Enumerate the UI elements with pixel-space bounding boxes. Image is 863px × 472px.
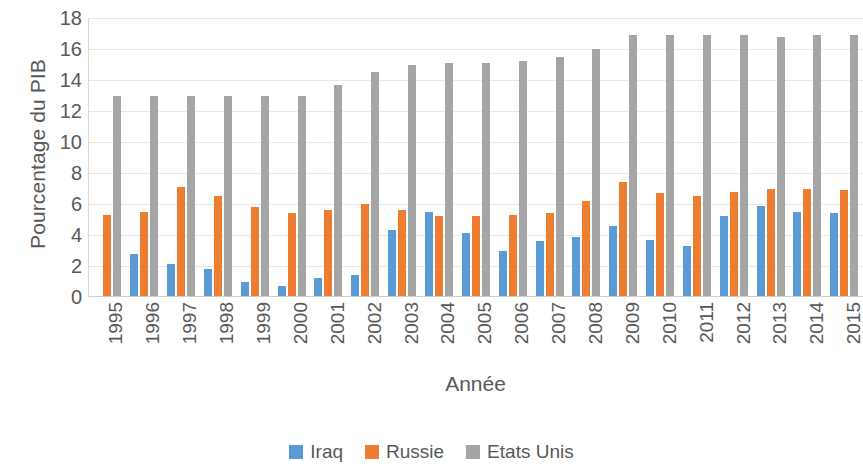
bar: [361, 204, 369, 297]
x-axis-tick-label: 2013: [770, 302, 789, 344]
bar-group: [310, 18, 347, 297]
x-axis-tick-label: 2000: [291, 302, 310, 344]
chart-legend: IraqRussieEtats Unis: [0, 442, 863, 461]
bar: [572, 237, 580, 297]
bar: [840, 190, 848, 297]
bar: [803, 189, 811, 298]
bar: [656, 193, 664, 297]
bar: [693, 196, 701, 297]
legend-label: Iraq: [310, 442, 343, 461]
x-axis-tick-label: 1995: [106, 302, 125, 344]
legend-swatch-icon: [466, 445, 480, 459]
x-axis-tick: 2011: [678, 300, 715, 366]
legend-label: Russie: [386, 442, 444, 461]
bar-group: [642, 18, 679, 297]
x-axis-tick-label: 1996: [143, 302, 162, 344]
bar: [334, 85, 342, 297]
x-axis-tick-labels: 1995199619971998199920002001200220032004…: [88, 300, 863, 366]
bar-group: [826, 18, 863, 297]
bar: [646, 240, 654, 297]
y-axis-tick-label: 10: [34, 132, 82, 152]
bar: [371, 72, 379, 297]
y-axis-tick-label: 18: [34, 8, 82, 28]
x-axis-tick-label: 2006: [512, 302, 531, 344]
x-axis-tick: 2010: [641, 300, 678, 366]
bar: [592, 49, 600, 297]
x-axis-tick-label: 2003: [402, 302, 421, 344]
x-axis-tick-label: 2014: [807, 302, 826, 344]
bar: [103, 215, 111, 297]
y-axis-tick-labels: 181614121086420: [34, 0, 82, 300]
bar: [813, 35, 821, 297]
bar: [425, 212, 433, 297]
bar: [730, 192, 738, 297]
bar: [740, 35, 748, 297]
bar: [666, 35, 674, 297]
bar-chart: Pourcentage du PIB 181614121086420 19951…: [0, 0, 863, 472]
y-axis-tick-label: 16: [34, 39, 82, 59]
x-axis-tick-label: 2008: [586, 302, 605, 344]
bar: [167, 264, 175, 297]
bar-group: [752, 18, 789, 297]
bar: [482, 63, 490, 297]
y-axis-tick-label: 4: [34, 225, 82, 245]
bar: [499, 251, 507, 298]
x-axis-tick: 2001: [309, 300, 346, 366]
legend-swatch-icon: [289, 445, 303, 459]
bar: [536, 241, 544, 297]
bar: [720, 216, 728, 297]
x-axis-tick: 1998: [199, 300, 236, 366]
bar-group: [457, 18, 494, 297]
x-axis-tick: 1997: [162, 300, 199, 366]
bar: [398, 210, 406, 297]
bar: [150, 96, 158, 298]
bar: [388, 230, 396, 297]
bar: [435, 216, 443, 297]
bar-group: [715, 18, 752, 297]
x-axis-tick: 2000: [272, 300, 309, 366]
bar: [177, 187, 185, 297]
bar-groups: [89, 18, 863, 297]
y-axis-tick-label: 12: [34, 101, 82, 121]
bar: [629, 35, 637, 297]
bar: [850, 35, 858, 297]
x-axis-line: [89, 296, 863, 297]
bar-group: [421, 18, 458, 297]
bar: [351, 275, 359, 297]
bar: [251, 207, 259, 297]
bar: [556, 57, 564, 297]
x-axis-tick: 2005: [457, 300, 494, 366]
x-axis-tick-label: 2005: [475, 302, 494, 344]
bar: [519, 61, 527, 297]
x-axis-tick-label: 2007: [549, 302, 568, 344]
bar: [777, 37, 785, 297]
x-axis-tick-label: 2001: [328, 302, 347, 344]
x-axis-tick-label: 2004: [438, 302, 457, 344]
bar: [509, 215, 517, 297]
bar: [241, 282, 249, 298]
bar: [582, 201, 590, 297]
bar: [314, 278, 322, 297]
legend-item[interactable]: Russie: [365, 442, 444, 461]
x-axis-tick: 2006: [494, 300, 531, 366]
bar-group: [605, 18, 642, 297]
bar: [757, 206, 765, 297]
bar-group: [273, 18, 310, 297]
bar-group: [200, 18, 237, 297]
bar: [187, 96, 195, 298]
x-axis-tick-label: 1998: [217, 302, 236, 344]
bar-group: [789, 18, 826, 297]
x-axis-tick: 2012: [715, 300, 752, 366]
y-axis-tick-label: 2: [34, 256, 82, 276]
x-axis-tick: 1995: [88, 300, 125, 366]
bar-group: [236, 18, 273, 297]
bar: [472, 216, 480, 297]
y-axis-tick-label: 8: [34, 163, 82, 183]
x-axis-tick: 2004: [420, 300, 457, 366]
bar-group: [679, 18, 716, 297]
legend-item[interactable]: Etats Unis: [466, 442, 574, 461]
bar: [224, 96, 232, 298]
y-axis-tick-label: 0: [34, 287, 82, 307]
legend-item[interactable]: Iraq: [289, 442, 343, 461]
x-axis-title: Année: [88, 372, 863, 396]
